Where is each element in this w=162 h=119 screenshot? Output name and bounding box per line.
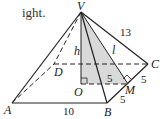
measure-OM: 5 xyxy=(107,72,113,84)
label-h: h xyxy=(74,44,80,58)
pyramid-diagram: V A B C D O M h l 13 10 5 5 5 xyxy=(0,0,162,119)
label-l: l xyxy=(112,43,116,57)
label-V: V xyxy=(77,0,86,13)
label-C: C xyxy=(151,57,160,71)
measure-BM: 5 xyxy=(120,93,126,105)
measure-VC: 13 xyxy=(120,26,132,38)
label-B: B xyxy=(104,105,112,119)
label-A: A xyxy=(3,103,12,117)
measure-AB: 10 xyxy=(63,105,75,117)
label-D: D xyxy=(53,65,63,79)
measure-MC: 5 xyxy=(141,73,147,85)
label-M: M xyxy=(124,83,136,97)
label-O: O xyxy=(74,85,83,99)
